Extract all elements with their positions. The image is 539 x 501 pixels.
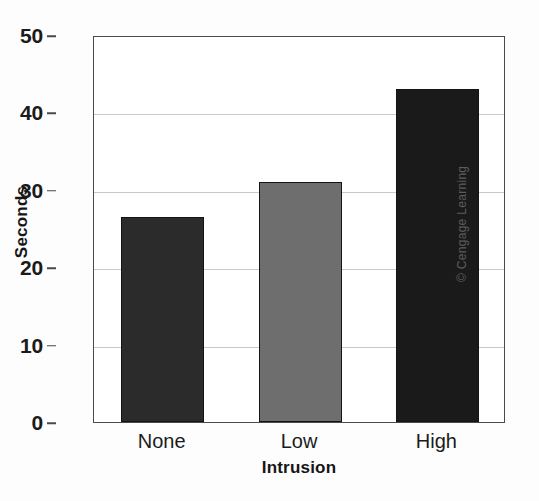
chart-figure: 01020304050 Seconds NoneLowHigh Intrusio… [0,0,539,501]
y-axis-tick-mark [47,267,56,269]
bars-group [94,37,504,422]
y-axis-tick-mark [47,345,56,347]
bar-low [259,182,342,422]
y-axis-tick-mark [47,422,56,424]
y-axis-tick-mark [47,35,56,37]
y-axis-title: Seconds [12,172,32,272]
x-axis-title: Intrusion [93,458,505,478]
y-axis-tick-mark [47,113,56,115]
y-axis-tick-label: 10 [20,334,43,358]
copyright-credit: © Cengage Learning [455,122,469,282]
x-axis-label-low: Low [229,430,369,453]
y-axis-tick-label: 40 [20,101,43,125]
x-axis-label-none: None [92,430,232,453]
y-axis-tick-mark [47,190,56,192]
x-axis-label-high: High [366,430,506,453]
y-axis-tick-label: 0 [32,411,43,435]
y-axis-tick-label: 50 [20,24,43,48]
bar-none [121,217,204,422]
plot-area [93,36,505,423]
